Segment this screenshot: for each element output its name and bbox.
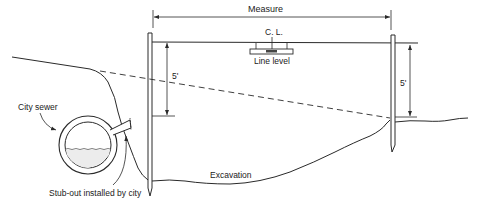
line-level-icon [250, 37, 293, 54]
line-level-label: Line level [254, 57, 290, 66]
grade-dashed-line [100, 71, 390, 118]
level-string-line [151, 42, 418, 43]
left-depth-label: 5' [172, 72, 178, 81]
measure-label: Measure [248, 5, 283, 14]
city-sewer-pipe [59, 116, 117, 174]
excavation-label: Excavation [210, 171, 252, 180]
ground-right [395, 118, 468, 122]
center-line-label: C. L. [265, 28, 283, 37]
sewer-excavation-diagram: Measure C. L. Line level 5' 5' City sewe… [0, 0, 481, 205]
stub-out-label: Stub-out installed by city [49, 189, 141, 198]
city-sewer-label: City sewer [18, 103, 58, 112]
right-stake [391, 35, 395, 152]
left-stake [148, 33, 152, 196]
excavation-bottom [152, 120, 390, 184]
city-sewer-leader [40, 113, 56, 130]
right-depth-label: 5' [400, 79, 406, 88]
